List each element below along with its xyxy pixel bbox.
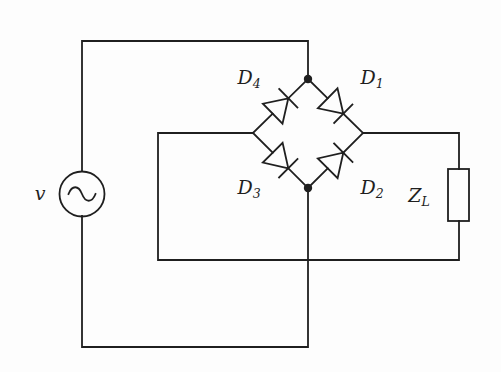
label-diode-d1-text: D [360,66,375,88]
bridge-top-junction-dot [304,75,312,83]
label-load-impedance-text: Z [408,184,421,206]
label-load-impedance: ZL [408,186,430,205]
label-diode-d4-subscript: 4 [253,76,261,91]
label-diode-d1: D1 [360,68,383,87]
label-load-impedance-subscript: L [421,194,429,209]
label-diode-d3-subscript: 3 [253,186,261,201]
label-diode-d3: D3 [237,178,260,197]
label-diode-d4-text: D [237,66,252,88]
label-diode-d1-subscript: 1 [376,76,384,91]
circuit-diagram: v D4 D1 D3 D2 ZL [0,0,501,372]
bridge-bottom-junction-dot [304,184,312,192]
label-diode-d3-text: D [237,176,252,198]
label-source-v: v [35,184,46,203]
label-source-v-text: v [35,182,46,204]
label-diode-d4: D4 [237,68,260,87]
label-diode-d2: D2 [360,178,383,197]
label-diode-d2-text: D [360,176,375,198]
label-diode-d2-subscript: 2 [376,186,384,201]
